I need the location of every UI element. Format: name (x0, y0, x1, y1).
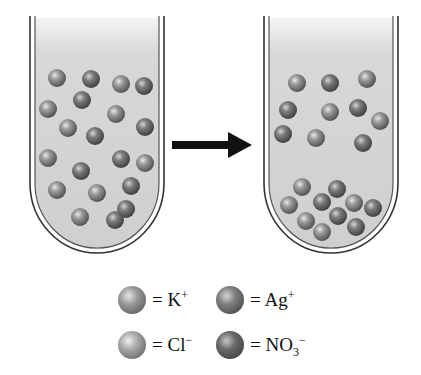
reaction-arrow-icon (172, 132, 252, 158)
ion-particle (82, 70, 100, 88)
ion-particle (297, 212, 315, 230)
ion-particle (135, 77, 153, 95)
ion-particle (349, 99, 367, 117)
ion-particle (136, 154, 154, 172)
ion-particle (347, 218, 365, 236)
ion-particle (136, 118, 154, 136)
ion-particle (112, 75, 130, 93)
ion-particle (313, 193, 331, 211)
ion-particle (288, 74, 306, 92)
ion-particle (280, 196, 298, 214)
ion-particle (307, 129, 325, 147)
ion-particle (364, 199, 382, 217)
ion-particle (122, 177, 140, 195)
ion-particle (279, 101, 297, 119)
test-tube-before (30, 16, 164, 253)
ion-particle (48, 181, 66, 199)
ion-particle (358, 70, 376, 88)
ion-particle (293, 178, 311, 196)
ion-particle (371, 112, 389, 130)
ion-particle (321, 103, 339, 121)
ion-particle (59, 119, 77, 137)
ion-particle (329, 207, 347, 225)
ion-particle (73, 91, 91, 109)
precipitation-diagram (0, 0, 421, 375)
ion-particle (72, 162, 90, 180)
ion-particle (86, 127, 104, 145)
ion-particle (112, 150, 130, 168)
ion-particle (106, 211, 124, 229)
ion-particle (39, 100, 57, 118)
ion-particle (321, 74, 339, 92)
ion-particle (274, 125, 292, 143)
ion-particle (354, 134, 372, 152)
test-tube-after (264, 16, 398, 253)
ion-particle (71, 208, 89, 226)
ion-particle (328, 180, 346, 198)
ion-particle (345, 194, 363, 212)
ion-particle (313, 223, 331, 241)
ion-particle (48, 69, 66, 87)
ion-particle (39, 149, 57, 167)
ion-particle (107, 105, 125, 123)
ion-particle (88, 184, 106, 202)
